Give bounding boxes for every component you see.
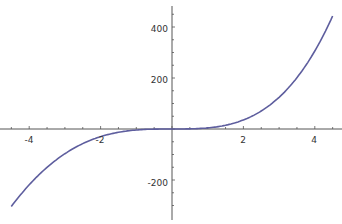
- x-tick-label-2: 2: [240, 135, 246, 145]
- axes: [0, 6, 342, 220]
- x-tick-label-neg4: -4: [25, 135, 34, 145]
- y-tick-label-neg200: -200: [148, 178, 169, 188]
- y-tick-label-200: 200: [151, 75, 168, 85]
- plot: -4 -2 2 4 400 200 -200: [0, 0, 342, 224]
- y-tick-label-400: 400: [151, 24, 168, 34]
- x-tick-label-4: 4: [311, 135, 317, 145]
- x-tick-label-neg2: -2: [96, 135, 105, 145]
